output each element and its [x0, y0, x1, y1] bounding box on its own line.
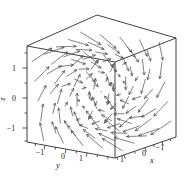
- field-arrow: [127, 136, 147, 137]
- field-arrow: [99, 134, 115, 141]
- z-tick-m1-label: −1: [7, 124, 16, 133]
- y-tick-0-label: 0: [61, 152, 65, 161]
- field-arrow: [76, 49, 92, 50]
- field-arrow: [74, 75, 80, 87]
- field-arrow: [47, 66, 61, 74]
- z-tick-0-label: 0: [12, 94, 16, 103]
- y-tick-1-label: 1: [79, 154, 83, 163]
- field-arrow: [69, 40, 89, 46]
- field-arrowhead: [163, 57, 164, 59]
- axis-tick-minor: [135, 151, 136, 153]
- field-arrow: [105, 120, 119, 131]
- field-arrow: [115, 138, 135, 144]
- field-arrow: [41, 104, 43, 120]
- z-tick-1-label: 1: [12, 64, 16, 73]
- field-arrow: [111, 133, 127, 134]
- field-arrowhead: [52, 122, 53, 125]
- field-arrow: [151, 121, 171, 134]
- field-arrow: [136, 119, 152, 131]
- field-arrow: [56, 127, 64, 143]
- field-arrow: [50, 85, 58, 94]
- field-arrowhead: [130, 118, 132, 119]
- field-arrow: [140, 40, 148, 56]
- field-arrow: [56, 46, 76, 47]
- y-tick-m1-label: −1: [36, 148, 45, 157]
- field-arrow: [102, 139, 122, 151]
- field-arrow: [71, 131, 83, 146]
- field-arrow: [88, 42, 104, 49]
- field-arrow: [142, 109, 156, 117]
- axis-tick-major: [124, 155, 125, 159]
- x-tick-1-label: 1: [120, 155, 124, 164]
- vector-field-plot: 10−1z−101y10−1x: [0, 0, 186, 178]
- field-arrow: [104, 114, 112, 123]
- axis-tick-minor: [170, 139, 171, 141]
- field-arrow: [84, 52, 98, 63]
- figure-container: 10−1z−101y10−1x: [0, 0, 186, 178]
- x-axis-label: x: [149, 155, 154, 165]
- field-arrow: [159, 42, 163, 60]
- axis-tick-major: [65, 149, 66, 153]
- cube-edge: [115, 38, 176, 62]
- cube-edge: [97, 15, 176, 38]
- field-arrow: [40, 123, 44, 141]
- axis-tick-major: [44, 145, 45, 149]
- field-arrow: [157, 82, 165, 97]
- field-arrowhead: [144, 72, 145, 74]
- x-tick-m1-label: −1: [156, 143, 165, 152]
- field-arrow-dot: [101, 91, 102, 92]
- field-arrow: [55, 71, 65, 84]
- field-arrow: [32, 48, 52, 61]
- field-arrow: [100, 35, 116, 48]
- field-arrow: [160, 62, 162, 78]
- axis-tick-minor: [154, 145, 155, 147]
- field-arrow: [87, 135, 103, 148]
- axis-tick-minor: [117, 157, 118, 159]
- x-tick-0-label: 0: [142, 149, 146, 158]
- cube-edge: [27, 15, 97, 46]
- field-arrow: [44, 47, 64, 54]
- field-arrowhead: [58, 108, 59, 110]
- field-arrow: [90, 116, 100, 128]
- field-arrow: [87, 72, 95, 82]
- field-arrow: [52, 52, 68, 64]
- field-arrow: [154, 101, 168, 115]
- field-arrowhead: [151, 58, 152, 61]
- field-arrow: [91, 60, 99, 69]
- field-arrow: [81, 32, 101, 44]
- field-arrow: [35, 67, 49, 81]
- field-arrow: [71, 56, 83, 67]
- field-arrow: [145, 89, 153, 98]
- field-arrow: [138, 99, 148, 112]
- field-arrowhead: [70, 107, 71, 109]
- z-axis-label: z: [0, 97, 7, 102]
- field-arrow: [67, 70, 77, 77]
- field-arrow: [139, 129, 159, 136]
- y-axis-label: y: [55, 160, 60, 170]
- field-arrowhead: [39, 123, 40, 125]
- field-arrow: [126, 106, 136, 113]
- axis-tick-major: [86, 153, 87, 157]
- field-arrow: [38, 86, 46, 101]
- field-arrowhead: [132, 73, 133, 75]
